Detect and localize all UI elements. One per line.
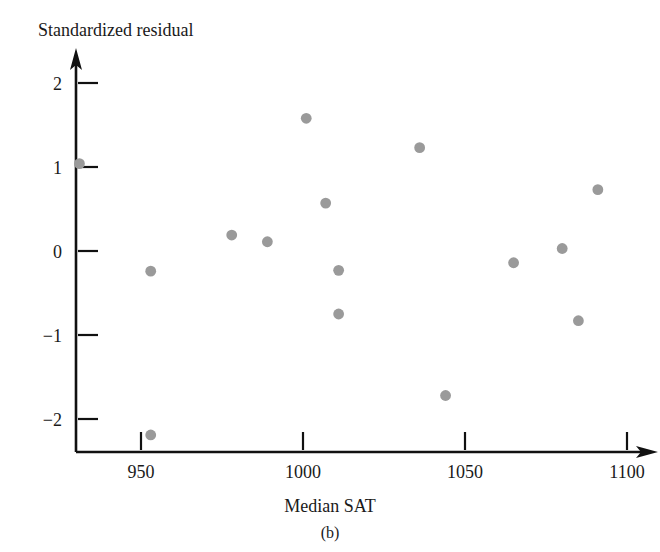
y-tick-label-minus1: −1 [43,326,62,346]
data-point [414,142,425,153]
data-point [301,113,312,124]
y-tick-label-2: 2 [53,74,62,94]
y-tick-label-1: 1 [53,158,62,178]
x-axis-ticks [141,432,627,450]
data-point [440,390,451,401]
data-point [145,430,156,441]
data-point-layer [74,113,603,440]
x-tick-label-1100: 1100 [609,462,644,482]
figure-caption: (b) [0,524,660,542]
data-point [573,315,584,326]
data-point [74,158,85,169]
y-axis-ticks [78,83,98,419]
data-point [226,230,237,241]
data-point [508,257,519,268]
x-axis-title: Median SAT [0,496,660,517]
scatter-plot: 2 1 0 −1 −2 950 1000 1050 1100 [0,0,660,552]
data-point [262,236,273,247]
data-point [145,266,156,277]
figure-panel: Standardized residual 2 1 0 −1 −2 [0,0,660,552]
y-tick-label-minus2: −2 [43,410,62,430]
data-point [333,309,344,320]
x-tick-label-1000: 1000 [285,462,321,482]
x-tick-label-950: 950 [128,462,155,482]
data-point [592,184,603,195]
x-tick-label-1050: 1050 [447,462,483,482]
data-point [557,243,568,254]
data-point [333,265,344,276]
y-tick-label-0: 0 [53,242,62,262]
data-point [320,198,331,209]
